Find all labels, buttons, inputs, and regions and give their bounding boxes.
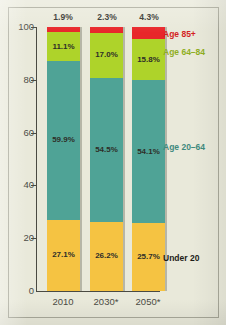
- segment-2050-age20-64: 54.1%: [132, 80, 165, 223]
- bar-shadow-2050: [165, 27, 167, 291]
- x-axis-label-2030: 2030*: [83, 297, 129, 307]
- legend-item-age64-84: Age 64–84: [163, 48, 205, 57]
- x-axis-line: [36, 291, 160, 292]
- y-tick-label-20: 20: [0, 233, 34, 243]
- segment-label-2010-age20-64: 59.9%: [47, 136, 80, 144]
- segment-2030-age20-64: 54.5%: [90, 78, 123, 222]
- plot-area: 100 80 60 40 20 0 1.9% 2.3% 4.3% 27.1% 5…: [0, 0, 226, 325]
- population-age-distribution-chart: 100 80 60 40 20 0 1.9% 2.3% 4.3% 27.1% 5…: [0, 0, 226, 325]
- segment-2050-age85plus: [132, 27, 165, 38]
- segment-label-2050-age20-64: 54.1%: [132, 148, 165, 156]
- bar-shadow-2030: [123, 27, 125, 291]
- segment-2010-age85plus: [47, 27, 80, 32]
- segment-2010-under20: 27.1%: [47, 220, 80, 292]
- bar-2050: 25.7% 54.1% 15.8%: [132, 27, 165, 291]
- segment-label-2010-under20: 27.1%: [47, 251, 80, 259]
- y-tick-label-60: 60: [0, 128, 34, 138]
- segment-label-2010-age64-84: 11.1%: [47, 43, 80, 51]
- segment-label-2050-under20: 25.7%: [132, 253, 165, 261]
- segment-label-2030-age20-64: 54.5%: [90, 146, 123, 154]
- y-tick-label-80: 80: [0, 75, 34, 85]
- segment-2010-age64-84: 11.1%: [47, 32, 80, 61]
- segment-label-2030-age64-84: 17.0%: [90, 51, 123, 59]
- legend-item-age85plus: Age 85+: [163, 30, 196, 39]
- bar-2030: 26.2% 54.5% 17.0%: [90, 27, 123, 291]
- segment-2050-under20: 25.7%: [132, 223, 165, 291]
- top-label-2030: 2.3%: [84, 13, 130, 22]
- y-axis-line: [36, 27, 37, 292]
- segment-2030-under20: 26.2%: [90, 222, 123, 291]
- segment-2030-age85plus: [90, 27, 123, 33]
- segment-2010-age20-64: 59.9%: [47, 61, 80, 219]
- x-axis-label-2050: 2050*: [125, 297, 171, 307]
- segment-2050-age64-84: 15.8%: [132, 39, 165, 81]
- y-tick-label-100: 100: [0, 22, 34, 32]
- y-tick-label-0: 0: [0, 286, 34, 296]
- y-tick-cap-100: [36, 27, 37, 31]
- legend-item-age20-64: Age 20–64: [163, 143, 205, 152]
- bar-shadow-2010: [80, 27, 82, 291]
- legend-item-under20: Under 20: [163, 254, 199, 263]
- x-axis-label-2010: 2010: [40, 297, 86, 307]
- segment-label-2050-age64-84: 15.8%: [132, 56, 165, 64]
- segment-label-2030-under20: 26.2%: [90, 252, 123, 260]
- bar-2010: 27.1% 59.9% 11.1%: [47, 27, 80, 291]
- top-label-2050: 4.3%: [126, 13, 172, 22]
- segment-2030-age64-84: 17.0%: [90, 33, 123, 78]
- y-tick-label-40: 40: [0, 181, 34, 191]
- top-label-2010: 1.9%: [40, 13, 86, 22]
